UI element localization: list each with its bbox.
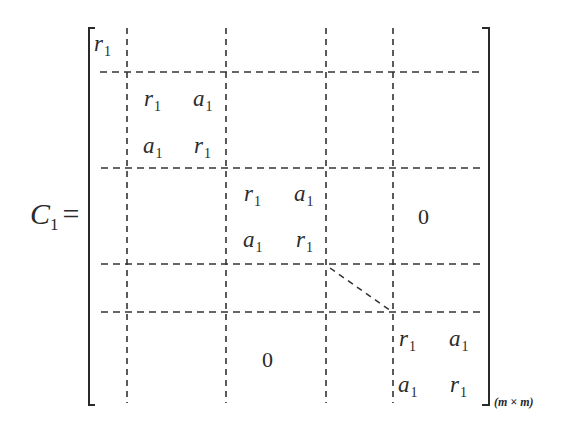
- lhs-subscript: 1: [50, 215, 59, 234]
- lhs-symbol: C: [30, 197, 50, 230]
- block1-r12: a1: [193, 87, 213, 110]
- blocklast-r12: a1: [449, 327, 469, 350]
- left-bracket: [89, 28, 95, 405]
- block1-r11: r1: [144, 87, 161, 110]
- vertical-partitions: [127, 28, 393, 403]
- diagonal-ellipsis: [330, 268, 391, 311]
- blocklast-r11: r1: [399, 327, 416, 350]
- right-bracket: [482, 28, 489, 405]
- blocklast-r21: a1: [398, 373, 418, 396]
- block1-r21: a1: [143, 134, 163, 157]
- upper-zero: 0: [418, 206, 429, 228]
- block2-r12: a1: [294, 182, 314, 205]
- block2-r22: r1: [296, 228, 313, 251]
- blocklast-r22: r1: [450, 373, 467, 396]
- block2-r11: r1: [244, 182, 261, 205]
- cell-top-left: r1: [94, 32, 111, 55]
- lower-zero: 0: [262, 349, 273, 371]
- block2-r21: a1: [243, 228, 263, 251]
- matrix-figure: [0, 0, 575, 424]
- lhs-label: C1=: [30, 199, 79, 229]
- dimension-label: (m × m): [494, 396, 534, 408]
- equals-sign: =: [63, 197, 80, 230]
- block1-r22: r1: [194, 134, 211, 157]
